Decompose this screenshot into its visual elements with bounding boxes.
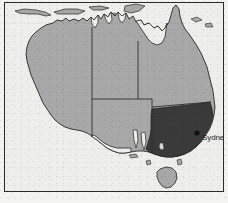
- island-timor-west: [15, 9, 51, 16]
- sydney-marker-dot[interactable]: [194, 130, 199, 135]
- sydney-label: Sydney: [202, 134, 224, 142]
- island-papua-tip: [124, 4, 145, 13]
- region-tasmania[interactable]: [157, 167, 177, 188]
- island-timor-east: [54, 9, 85, 14]
- island-dot-c: [205, 23, 213, 27]
- island-sliver-north: [89, 6, 109, 10]
- island-flinders: [177, 159, 182, 165]
- island-dot-b: [191, 17, 202, 22]
- map-figure: Sydney: [0, 0, 228, 203]
- australia-map-svg: [5, 3, 223, 191]
- map-frame-border: Sydney: [4, 2, 224, 192]
- region-new-south-wales-victoria[interactable]: [146, 102, 213, 157]
- island-kangaroo: [129, 154, 138, 158]
- island-king: [146, 160, 151, 165]
